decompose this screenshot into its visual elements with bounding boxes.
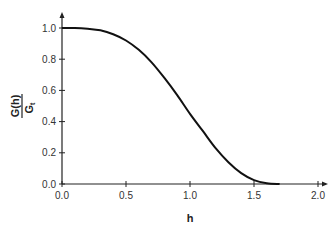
x-tick-label: 2.0 (311, 190, 325, 201)
svg-text:Gt: Gt (23, 102, 36, 114)
x-tick-label: 1.5 (247, 190, 261, 201)
y-axis-label: G(h) Gt (9, 94, 36, 118)
x-tick-label: 1.0 (183, 190, 197, 201)
axes (59, 12, 328, 187)
y-tick-label: 0.4 (42, 116, 56, 127)
y-tick-label: 0.2 (42, 147, 56, 158)
chart: 0.00.51.01.52.00.00.20.40.60.81.0 h G(h)… (0, 0, 336, 229)
svg-text:G(h): G(h) (9, 94, 21, 117)
y-tick-label: 0.0 (42, 179, 56, 190)
x-axis-arrow-icon (322, 182, 328, 187)
x-axis-label: h (187, 212, 194, 224)
data-curve (62, 28, 280, 184)
x-tick-label: 0.0 (55, 190, 69, 201)
y-tick-label: 0.6 (42, 85, 56, 96)
y-axis-arrow-icon (60, 12, 65, 18)
tick-labels: 0.00.51.01.52.00.00.20.40.60.81.0 (42, 23, 325, 202)
y-tick-label: 0.8 (42, 54, 56, 65)
x-tick-label: 0.5 (119, 190, 133, 201)
y-tick-label: 1.0 (42, 23, 56, 34)
